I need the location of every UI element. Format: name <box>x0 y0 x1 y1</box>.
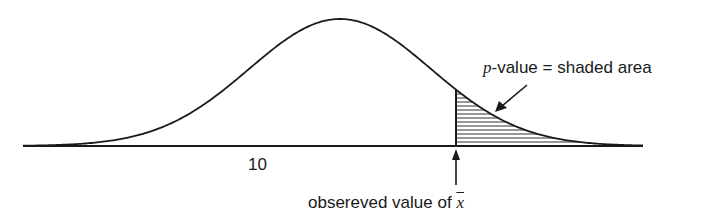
p-symbol: p <box>483 58 492 77</box>
p-value-arrow <box>495 85 527 112</box>
p-value-annotation: p-value = shaded area <box>483 58 652 78</box>
x-bar-symbol: x <box>456 193 464 212</box>
x-tick-label: 10 <box>248 155 267 175</box>
observed-value-arrow <box>452 149 460 185</box>
shaded-area-hatching <box>456 22 643 142</box>
observed-value-annotation: obsereved value of x <box>308 193 464 213</box>
p-value-text: -value = shaded area <box>492 58 652 77</box>
density-curve <box>23 19 643 146</box>
observed-value-text: obsereved value of <box>308 193 456 212</box>
normal-distribution-chart <box>0 0 707 222</box>
